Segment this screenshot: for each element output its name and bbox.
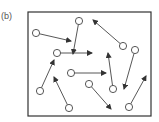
particles-group	[32, 17, 146, 111]
particle-circle	[36, 87, 43, 94]
particle-circle	[119, 42, 126, 49]
velocity-arrow	[73, 25, 78, 54]
particle-circle	[32, 29, 39, 36]
particle-circle	[75, 17, 82, 24]
particle-circle	[67, 69, 74, 76]
particle-circle	[125, 103, 132, 110]
velocity-arrow	[93, 20, 120, 44]
velocity-arrow	[41, 60, 54, 88]
velocity-arrow	[131, 76, 146, 104]
velocity-arrow	[40, 34, 71, 41]
velocity-arrow	[54, 77, 67, 105]
particle-circle	[53, 49, 60, 56]
particle-circle	[131, 46, 138, 53]
velocity-arrow	[91, 87, 111, 109]
particle-circle	[85, 80, 92, 87]
velocity-arrow	[124, 53, 134, 89]
velocity-arrow	[108, 53, 113, 85]
particle-circle	[109, 85, 116, 92]
particle-velocity-diagram	[0, 0, 159, 122]
particle-circle	[65, 104, 72, 111]
